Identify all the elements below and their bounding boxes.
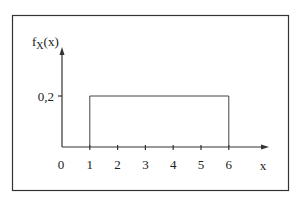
- y-axis-label: fX(x): [32, 34, 59, 51]
- x-tick-label: 4: [170, 157, 177, 172]
- x-tick-label: 1: [87, 157, 94, 172]
- uniform-density-chart: 01234560,2fX(x)x: [0, 0, 299, 201]
- y-axis-arrowhead: [60, 47, 65, 55]
- x-axis-arrowhead: [261, 145, 269, 150]
- x-tick-label: 3: [142, 157, 149, 172]
- x-tick-label: 5: [198, 157, 205, 172]
- density-line: [90, 96, 229, 147]
- x-tick-label: 0: [58, 157, 65, 172]
- y-tick-label: 0,2: [38, 89, 54, 104]
- x-tick-label: 6: [226, 157, 233, 172]
- x-tick-label: 2: [114, 157, 121, 172]
- x-axis-label: x: [260, 158, 267, 173]
